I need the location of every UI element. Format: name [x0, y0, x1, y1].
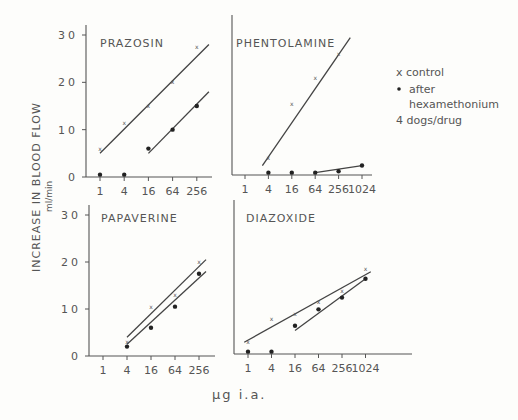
control-point: x: [246, 338, 250, 345]
x-tick-label: 1: [97, 185, 104, 198]
hexamethonium-point: [122, 172, 126, 176]
control-point: x: [340, 287, 344, 294]
panel-title: PAPAVERINE: [101, 212, 178, 225]
y-tick-label: 0: [68, 171, 78, 184]
control-point: x: [267, 154, 271, 161]
y-tick-label: 0: [71, 350, 81, 363]
x-tick-label: 64: [308, 183, 322, 196]
legend-hexamethonium: hexamethonium: [409, 98, 499, 111]
y-tick-label: 30: [61, 209, 81, 222]
x-tick-label: 1: [100, 364, 107, 377]
hexamethonium-point: [173, 304, 177, 308]
x-tick-label: 16: [285, 183, 299, 196]
hexamethonium-point: [360, 163, 364, 167]
hexamethonium-point: [269, 349, 273, 353]
y-tick-label: 20: [58, 76, 78, 89]
y-tick-label: 10: [61, 303, 81, 316]
x-tick-label: 4: [268, 362, 275, 375]
hexamethonium-point: [197, 272, 201, 276]
fit-line: [100, 44, 209, 153]
hexamethonium-point: [316, 307, 320, 311]
x-axis-label: µg i.a.: [212, 387, 267, 402]
x-tick-label: 16: [288, 362, 302, 375]
hexamethonium-point: [195, 104, 199, 108]
hexamethonium-point: [246, 349, 250, 353]
x-tick-label: 4: [121, 185, 128, 198]
panel-phentolamine: 1416642561024PHENTOLAMINExxxx: [232, 15, 376, 196]
hexamethonium-point: [149, 326, 153, 330]
hexamethonium-point: [125, 344, 129, 348]
fit-line: [127, 260, 206, 338]
control-point: x: [337, 50, 341, 57]
x-tick-label: 256: [328, 183, 349, 196]
x-tick-label: 16: [144, 364, 158, 377]
control-point: x: [173, 291, 177, 298]
hexamethonium-point: [336, 169, 340, 173]
panel-title: PHENTOLAMINE: [236, 37, 335, 50]
fit-line: [244, 272, 371, 343]
panel-papaverine: 0102030141664256PAPAVERINExxxx: [61, 205, 215, 377]
control-point: x: [149, 303, 153, 310]
fit-line: [295, 279, 366, 331]
legend-after: after: [409, 83, 436, 96]
x-tick-label: 1024: [352, 362, 380, 375]
x-tick-label: 1: [242, 183, 249, 196]
x-tick-label: 256: [186, 185, 207, 198]
hexamethonium-point: [266, 170, 270, 174]
control-point: x: [317, 298, 321, 305]
hexamethonium-point: [340, 295, 344, 299]
panel-title: PRAZOSIN: [100, 37, 164, 50]
fit-line: [148, 92, 209, 154]
x-tick-label: 64: [168, 364, 182, 377]
legend: x controlafterhexamethonium4 dogs/drug: [396, 66, 499, 127]
hexamethonium-point: [363, 277, 367, 281]
panel-prazosin: 0102030141664256PRAZOSINxxxxx: [58, 25, 212, 198]
x-tick-label: 4: [124, 364, 131, 377]
hexamethonium-point: [170, 127, 174, 131]
panel-title: DIAZOXIDE: [246, 212, 316, 225]
control-point: x: [270, 315, 274, 322]
x-tick-label: 1024: [348, 183, 376, 196]
x-tick-label: 256: [189, 364, 210, 377]
legend-control: x control: [396, 66, 444, 79]
hexamethonium-point: [293, 324, 297, 328]
hexamethonium-point: [98, 172, 102, 176]
control-point: x: [313, 74, 317, 81]
hexamethonium-point: [313, 170, 317, 174]
fit-line: [127, 271, 206, 344]
x-tick-label: 1: [245, 362, 252, 375]
y-tick-label: 30: [58, 29, 78, 42]
control-point: x: [293, 310, 297, 317]
control-point: x: [195, 43, 199, 50]
x-tick-label: 64: [312, 362, 326, 375]
control-point: x: [290, 100, 294, 107]
hexamethonium-point: [146, 146, 150, 150]
y-axis-label: INCREASE IN BLOOD FLOW: [30, 102, 43, 272]
panel-diazoxide: 1416642561024DIAZOXIDExxxxxx: [234, 200, 412, 375]
control-point: x: [98, 145, 102, 152]
y-axis-unit: ml/min: [44, 181, 54, 212]
x-tick-label: 64: [166, 185, 180, 198]
x-tick-label: 16: [141, 185, 155, 198]
control-point: x: [147, 102, 151, 109]
control-point: x: [364, 265, 368, 272]
y-tick-label: 10: [58, 124, 78, 137]
y-tick-label: 20: [61, 256, 81, 269]
legend-note: 4 dogs/drug: [396, 114, 462, 127]
control-point: x: [122, 119, 126, 126]
control-point: x: [197, 258, 201, 265]
figure-canvas: 0102030141664256PRAZOSINxxxxx14166425610…: [0, 0, 518, 420]
x-tick-label: 4: [265, 183, 272, 196]
legend-dot-icon: [397, 87, 401, 91]
control-point: x: [171, 78, 175, 85]
hexamethonium-point: [290, 170, 294, 174]
x-tick-label: 256: [332, 362, 353, 375]
